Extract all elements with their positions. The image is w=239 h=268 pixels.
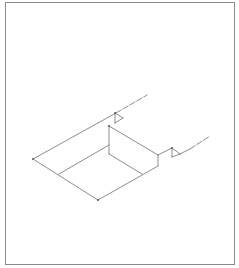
vertex-marker [114, 112, 116, 114]
block-top-edge [109, 126, 158, 155]
upper-extension-line [33, 113, 116, 159]
vertex-marker [171, 147, 173, 149]
vertex-marker [32, 158, 34, 160]
right-extension-line [180, 149, 190, 154]
block-bottom-edge [109, 154, 142, 174]
isometric-drawing [0, 0, 239, 268]
vertex-marker [108, 125, 110, 127]
front-left-edge [33, 159, 98, 200]
upper-extension-dashed [116, 95, 147, 113]
right-extension-dashed [190, 136, 210, 149]
vertex-marker [97, 199, 99, 201]
front-bottom-edge [98, 166, 158, 200]
step-dim-diag [172, 148, 180, 154]
step-top [158, 148, 172, 155]
inner-floor-line [59, 145, 109, 174]
step-dim-base [172, 154, 180, 157]
upper-dim-diag [115, 113, 123, 118]
upper-dim-base [115, 118, 123, 123]
